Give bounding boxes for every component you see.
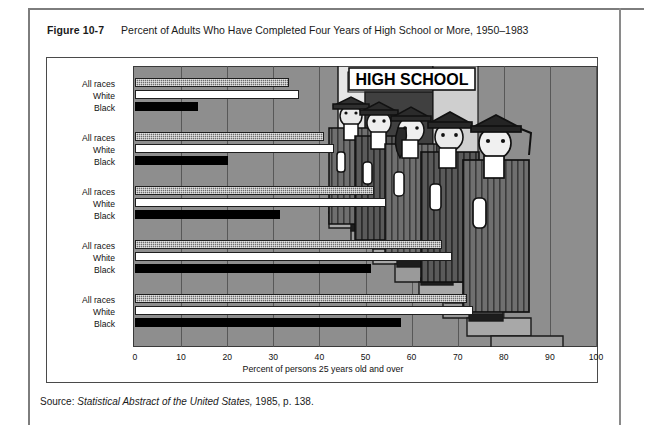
- bar-1970-black: [135, 210, 280, 219]
- source-title: Statistical Abstract of the United State…: [77, 396, 252, 407]
- figure-page: Figure 10-7 Percent of Adults Who Have C…: [0, 0, 645, 425]
- chart-container: HIGH SCHOOL 1950All racesWhiteBlack1960A…: [46, 57, 598, 383]
- series-label-white: White: [59, 199, 115, 209]
- bar-1960-all-races: [135, 132, 324, 141]
- series-label-white: White: [59, 253, 115, 263]
- x-tick-0: 0: [123, 352, 147, 362]
- bar-1950-all-races: [135, 78, 289, 87]
- x-tick-100: 100: [584, 352, 608, 362]
- gridline-100: [596, 66, 597, 347]
- source-note: Source: Statistical Abstract of the Unit…: [40, 396, 314, 407]
- x-tick-50: 50: [354, 352, 378, 362]
- x-tick-70: 70: [446, 352, 470, 362]
- bar-1960-white: [135, 144, 334, 153]
- gridline-80: [504, 66, 505, 347]
- bar-1980-all-races: [135, 240, 442, 249]
- figure-caption: Figure 10-7 Percent of Adults Who Have C…: [47, 24, 587, 36]
- source-suffix: 1985, p. 138.: [253, 396, 314, 407]
- x-tick-20: 20: [215, 352, 239, 362]
- bar-1970-all-races: [135, 186, 374, 195]
- bar-1950-black: [135, 102, 198, 111]
- series-label-black: Black: [59, 103, 115, 113]
- gridline-60: [412, 66, 413, 347]
- x-tick-10: 10: [169, 352, 193, 362]
- bar-1980-black: [135, 264, 371, 273]
- series-label-white: White: [59, 91, 115, 101]
- series-label-black: Black: [59, 265, 115, 275]
- x-tick-40: 40: [307, 352, 331, 362]
- x-tick-90: 90: [538, 352, 562, 362]
- series-label-black: Black: [59, 211, 115, 221]
- series-label-all-races: All races: [59, 295, 115, 305]
- page-border-right: [619, 8, 621, 425]
- bar-1970-white: [135, 198, 386, 207]
- bar-1960-black: [135, 156, 228, 165]
- plot-area: HIGH SCHOOL: [133, 66, 599, 347]
- x-tick-60: 60: [400, 352, 424, 362]
- figure-number: Figure 10-7: [47, 24, 104, 36]
- series-label-white: White: [59, 307, 115, 317]
- x-tick-80: 80: [492, 352, 516, 362]
- series-label-black: Black: [59, 319, 115, 329]
- bar-1983-all-races: [135, 294, 467, 303]
- series-label-all-races: All races: [59, 241, 115, 251]
- source-prefix: Source:: [40, 396, 77, 407]
- x-tick-30: 30: [261, 352, 285, 362]
- gridline-90: [550, 66, 551, 347]
- series-label-white: White: [59, 145, 115, 155]
- gridline-70: [458, 66, 459, 347]
- bar-1950-white: [135, 90, 299, 99]
- bar-1983-black: [135, 318, 401, 327]
- figure-title: Percent of Adults Who Have Completed Fou…: [121, 24, 528, 36]
- bar-1980-white: [135, 252, 452, 261]
- series-label-all-races: All races: [59, 187, 115, 197]
- series-label-all-races: All races: [59, 133, 115, 143]
- bar-1983-white: [135, 306, 473, 315]
- series-label-all-races: All races: [59, 79, 115, 89]
- x-axis-title: Percent of persons 25 years old and over: [47, 364, 599, 374]
- series-label-black: Black: [59, 157, 115, 167]
